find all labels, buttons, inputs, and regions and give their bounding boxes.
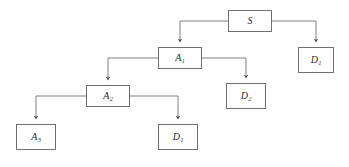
node-s[interactable]: S [228, 10, 272, 32]
node-a2[interactable]: A2 [86, 85, 130, 107]
node-d1-right[interactable]: D1 [298, 47, 334, 73]
edge-s-to-a1 [180, 21, 228, 41]
node-s-label: S [247, 16, 252, 26]
node-a1-label: A1 [175, 53, 185, 63]
node-d2[interactable]: D2 [226, 83, 266, 109]
edge-a1-to-a2 [108, 58, 158, 79]
node-d2-label: D2 [241, 91, 252, 101]
edge-a2-to-d1-bottom [130, 96, 178, 118]
node-a1[interactable]: A1 [158, 47, 202, 69]
node-a3-label: A3 [31, 132, 41, 142]
diagram-canvas: S A1 D1 A2 D2 A3 D1 [0, 0, 349, 167]
node-d1-right-label: D1 [311, 55, 322, 65]
node-d1-bottom-label: D1 [173, 132, 184, 142]
edge-a2-to-a3 [36, 96, 86, 118]
node-a2-label: A2 [103, 91, 113, 101]
node-a3[interactable]: A3 [16, 124, 56, 150]
node-d1-bottom[interactable]: D1 [158, 124, 198, 150]
edge-a1-to-d2 [202, 58, 246, 77]
edge-s-to-d1-right [272, 21, 316, 41]
